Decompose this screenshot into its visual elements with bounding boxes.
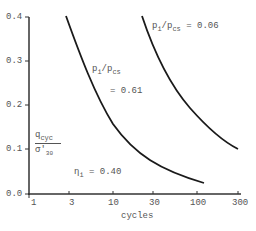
- curve-label-0.06: pi/pcs = 0.06: [152, 22, 219, 31]
- y-tick-label: 0.2: [6, 101, 22, 110]
- chart-canvas: [0, 0, 256, 231]
- x-tick-label: 1: [31, 199, 36, 208]
- ylabel-numerator-sub: cyc: [40, 134, 53, 142]
- y-tick-label: 0.1: [6, 145, 22, 154]
- y-tick-label: 0.0: [6, 190, 22, 199]
- x-tick-label: 10: [108, 199, 119, 208]
- curve-label-0.61: pi/pcs: [92, 65, 121, 74]
- x-tick-label: 3: [69, 199, 74, 208]
- eta-annotation: ηi = 0.40: [74, 168, 121, 177]
- ylabel-denominator-sub: 30: [46, 150, 53, 157]
- ylabel-denominator: σ': [35, 145, 46, 155]
- curve-label-0.61-value: = 0.61: [110, 87, 142, 96]
- x-axis-title: cycles: [121, 212, 153, 221]
- x-tick-label: 300: [232, 199, 248, 208]
- y-axis-title: qcyc σ'30: [35, 130, 61, 155]
- x-tick-label: 100: [190, 199, 206, 208]
- curve-pi-pcs-0.06: [142, 16, 238, 149]
- x-tick-label: 30: [149, 199, 160, 208]
- y-tick-label: 0.4: [6, 13, 22, 22]
- y-tick-label: 0.3: [6, 57, 22, 66]
